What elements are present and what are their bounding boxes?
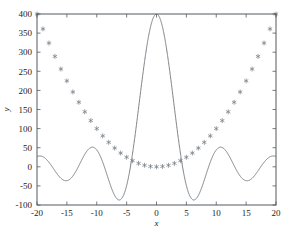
y-axis-title: y	[1, 108, 11, 113]
scatter-marker	[262, 41, 266, 45]
y-tick-label: -50	[20, 181, 32, 191]
scatter-marker	[89, 118, 93, 122]
scatter-marker	[137, 161, 141, 165]
scatter-marker	[244, 79, 248, 83]
scatter-marker	[125, 155, 129, 159]
scatter-marker	[155, 165, 159, 169]
y-tick-label: 400	[19, 9, 33, 19]
scatter-marker	[83, 110, 87, 114]
scatter-marker	[59, 67, 63, 71]
scatter-marker	[268, 27, 272, 31]
x-tick-label: 20	[272, 208, 282, 218]
y-tick-label: 50	[23, 143, 33, 153]
scatter-marker	[256, 54, 260, 58]
y-tick-label: 350	[19, 28, 33, 38]
scatter-marker	[53, 54, 57, 58]
scatter-marker	[47, 41, 51, 45]
scatter-marker	[149, 164, 153, 168]
plot-area: -20-15-10-505101520-100-5005010015020025…	[0, 0, 286, 236]
scatter-marker	[197, 146, 201, 150]
chart-figure: -20-15-10-505101520-100-5005010015020025…	[0, 0, 286, 236]
scatter-marker	[113, 146, 117, 150]
scatter-marker	[202, 140, 206, 144]
axis-ticks: -20-15-10-505101520-100-5005010015020025…	[16, 9, 282, 218]
scatter-marker	[232, 100, 236, 104]
oscillatory-curve	[37, 14, 276, 200]
x-tick-label: -10	[91, 208, 103, 218]
scatter-marker	[191, 151, 195, 155]
scatter-marker	[119, 151, 123, 155]
scatter-marker	[185, 155, 189, 159]
scatter-marker	[238, 90, 242, 94]
y-tick-label: 300	[19, 47, 33, 57]
scatter-marker	[41, 27, 45, 31]
scatter-marker	[143, 163, 147, 167]
scatter-marker	[77, 100, 81, 104]
y-tick-label: -100	[16, 200, 33, 210]
scatter-marker	[214, 127, 218, 131]
x-tick-label: -5	[123, 208, 131, 218]
scatter-marker	[71, 90, 75, 94]
y-tick-label: 150	[19, 105, 33, 115]
scatter-marker	[250, 67, 254, 71]
x-tick-label: -15	[61, 208, 73, 218]
scatter-marker	[107, 140, 111, 144]
scatter-marker	[167, 163, 171, 167]
x-tick-label: 0	[154, 208, 159, 218]
x-tick-label: 10	[212, 208, 222, 218]
x-axis-title: x	[154, 218, 159, 228]
x-tick-label: -20	[31, 208, 43, 218]
scatter-marker	[101, 134, 105, 138]
scatter-marker	[65, 79, 69, 83]
x-tick-label: 5	[184, 208, 189, 218]
scatter-marker	[208, 134, 212, 138]
y-tick-label: 250	[19, 67, 33, 77]
scatter-marker	[95, 127, 99, 131]
scatter-marker	[226, 110, 230, 114]
cut-off-caption	[0, 230, 286, 236]
y-tick-label: 0	[28, 162, 33, 172]
scatter-marker	[161, 164, 165, 168]
scatter-marker	[173, 161, 177, 165]
scatter-marker	[220, 118, 224, 122]
scatter-series	[35, 12, 278, 169]
x-tick-label: 15	[242, 208, 252, 218]
y-tick-label: 200	[19, 86, 33, 96]
y-tick-label: 100	[19, 124, 33, 134]
